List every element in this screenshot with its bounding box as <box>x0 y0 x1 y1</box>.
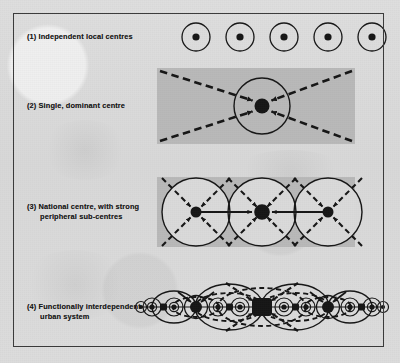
figure-canvas: (1) Independent local centres (2) Single… <box>0 0 400 363</box>
figure-border <box>13 13 384 347</box>
row-2-label: (2) Single, dominant centre <box>27 101 125 111</box>
row-3-label: (3) National centre, with strong periphe… <box>27 202 139 221</box>
row-4-label: (4) Functionally interdependent urban sy… <box>27 302 141 321</box>
row-1-label: (1) Independent local centres <box>27 32 133 42</box>
